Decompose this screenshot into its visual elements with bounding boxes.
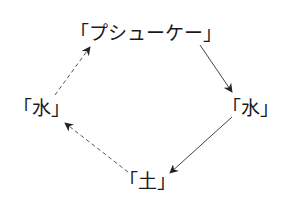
node-psyche: 「プシューケー」 xyxy=(70,24,222,43)
arrow-earth-to-water-left xyxy=(65,123,128,172)
cycle-diagram: 「プシューケー」 「水」 「土」 「水」 xyxy=(0,0,290,205)
arrow-water-right-to-earth xyxy=(170,117,232,173)
node-water-right: 「水」 xyxy=(222,99,279,118)
arrow-psyche-to-water-right xyxy=(200,45,232,92)
arrow-water-left-to-psyche xyxy=(55,47,90,95)
node-earth: 「土」 xyxy=(119,172,176,191)
node-water-left: 「水」 xyxy=(13,99,70,118)
